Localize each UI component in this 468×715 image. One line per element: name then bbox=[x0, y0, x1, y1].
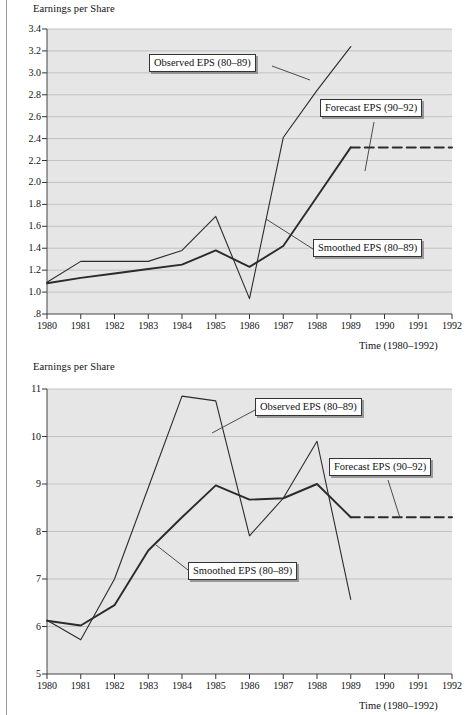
chart-bottom-x-tick-label: 1992 bbox=[432, 681, 468, 691]
chart-top-y-tick-label: 2.2 bbox=[8, 156, 41, 166]
chart-bottom-y-tick-label: 8 bbox=[8, 527, 41, 537]
chart-bottom-y-tick-label: 10 bbox=[8, 432, 41, 442]
chart-top-y-tick-label: 3.2 bbox=[8, 46, 41, 56]
chart-top-y-tick-label: 1.8 bbox=[8, 199, 41, 209]
chart-bottom-y-tick-label: 9 bbox=[8, 479, 41, 489]
chart-top-y-tick-label: 1.0 bbox=[8, 287, 41, 297]
chart-top-y-tick-label: 1.2 bbox=[8, 265, 41, 275]
chart-top-y-tick-label: 2.0 bbox=[8, 177, 41, 187]
chart-top-y-tick-label: 1.6 bbox=[8, 221, 41, 231]
chart-top-y-tick-label: 2.8 bbox=[8, 90, 41, 100]
chart-top: Earnings per Share Time (1980–1992) 3.43… bbox=[0, 0, 468, 355]
chart-top-y-tick-label: 2.6 bbox=[8, 112, 41, 122]
chart-bottom-series-line bbox=[47, 396, 351, 640]
chart-bottom-callout-leader bbox=[388, 480, 400, 518]
chart-bottom-series-line bbox=[47, 484, 351, 626]
chart-top-y-tick-label: 3.0 bbox=[8, 68, 41, 78]
chart-top-series-line bbox=[47, 147, 351, 283]
chart-bottom-callout-smoothed: Smoothed EPS (80–89) bbox=[188, 562, 297, 580]
chart-top-y-tick-label: 1.4 bbox=[8, 243, 41, 253]
chart-bottom-y-tick-label: 5 bbox=[8, 669, 41, 679]
chart-bottom-y-tick-label: 11 bbox=[8, 384, 41, 394]
chart-bottom-callout-leader bbox=[156, 545, 188, 570]
chart-top-x-tick-label: 1992 bbox=[432, 321, 468, 331]
chart-bottom-callout-forecast: Forecast EPS (90–92) bbox=[329, 458, 431, 476]
chart-bottom-y-tick-label: 6 bbox=[8, 622, 41, 632]
chart-top-y-tick-label: 3.4 bbox=[8, 24, 41, 34]
chart-bottom: Earnings per Share Time (1980–1992) 1110… bbox=[0, 358, 468, 715]
chart-top-callout-smoothed: Smoothed EPS (80–89) bbox=[313, 239, 422, 257]
chart-top-callout-observed: Observed EPS (80–89) bbox=[149, 54, 256, 72]
chart-top-callout-leader bbox=[266, 219, 313, 249]
chart-top-y-tick-label: .8 bbox=[8, 309, 41, 319]
chart-bottom-x-axis-title: Time (1980–1992) bbox=[359, 700, 438, 711]
chart-top-callout-forecast: Forecast EPS (90–92) bbox=[320, 99, 422, 117]
chart-bottom-callout-observed: Observed EPS (80–89) bbox=[255, 398, 362, 416]
chart-top-y-tick-label: 2.4 bbox=[8, 134, 41, 144]
chart-top-x-axis-title: Time (1980–1992) bbox=[359, 340, 438, 351]
chart-bottom-y-tick-label: 7 bbox=[8, 574, 41, 584]
chart-top-series-line bbox=[47, 47, 351, 299]
chart-bottom-canvas bbox=[0, 358, 468, 715]
